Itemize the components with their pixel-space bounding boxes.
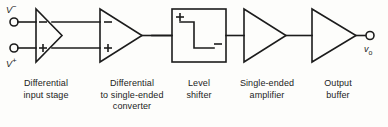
output-terminal-label: vo — [364, 44, 372, 56]
caption-diff-to-single-converter: Differential to single-ended converter — [90, 78, 174, 113]
caption-level-shifter: Level shifter — [176, 78, 222, 101]
block-output-buffer-shape — [312, 9, 356, 62]
block-differential-input-stage-shape — [36, 9, 62, 62]
output-terminal-circle-icon — [366, 32, 374, 40]
block-single-ended-amplifier-shape — [244, 9, 286, 62]
diagram-canvas: V− V+ vo Differential input stage Differ… — [0, 0, 388, 127]
block-diff-to-single-converter-shape — [100, 9, 142, 62]
input-plus-terminal-label: V+ — [6, 56, 17, 69]
input-plus-terminal-circle-icon — [10, 44, 18, 52]
input-minus-terminal-circle-icon — [10, 18, 18, 26]
caption-output-buffer: Output buffer — [310, 78, 366, 101]
caption-differential-input-stage: Differential input stage — [4, 78, 88, 101]
input-minus-terminal-label: V− — [6, 2, 17, 15]
block-diagram-svg — [0, 0, 388, 127]
caption-single-ended-amplifier: Single-ended amplifier — [226, 78, 308, 101]
